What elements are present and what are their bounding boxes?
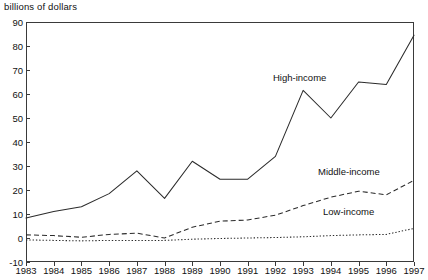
y-tick-mark (26, 238, 30, 239)
x-tick-label: 1995 (348, 265, 369, 276)
x-tick-label: 1986 (99, 265, 120, 276)
y-tick-label: 0 (18, 233, 23, 244)
y-tick-mark (26, 166, 30, 167)
x-tick-label: 1991 (237, 265, 258, 276)
y-tick-mark (26, 190, 30, 191)
y-tick-mark (26, 70, 30, 71)
y-tick-label: 80 (12, 41, 23, 52)
x-tick-label: 1997 (403, 265, 424, 276)
x-tick-label: 1993 (293, 265, 314, 276)
x-tick-label: 1994 (320, 265, 341, 276)
x-tick-label: 1984 (43, 265, 64, 276)
y-tick-label: 50 (12, 113, 23, 124)
y-tick-label: 20 (12, 185, 23, 196)
x-tick-label: 1985 (71, 265, 92, 276)
line-chart: billions of dollars -1001020304050607080… (0, 0, 428, 280)
y-tick-label: 90 (12, 17, 23, 28)
y-tick-label: 40 (12, 137, 23, 148)
series-label-low-income: Low-income (323, 206, 374, 217)
x-tick-label: 1992 (265, 265, 286, 276)
plot-area (26, 22, 414, 262)
x-tick-label: 1988 (154, 265, 175, 276)
x-tick-label: 1983 (15, 265, 36, 276)
x-tick-label: 1987 (126, 265, 147, 276)
y-axis-labels: -100102030405060708090 (0, 0, 23, 280)
x-tick-label: 1990 (209, 265, 230, 276)
y-tick-mark (26, 142, 30, 143)
y-tick-mark (26, 214, 30, 215)
y-tick-label: 70 (12, 65, 23, 76)
y-tick-mark (26, 46, 30, 47)
y-tick-label: 10 (12, 209, 23, 220)
series-label-high-income: High-income (273, 72, 326, 83)
y-tick-mark (26, 22, 30, 23)
x-tick-label: 1989 (182, 265, 203, 276)
y-tick-mark (26, 94, 30, 95)
series-label-middle-income: Middle-income (318, 166, 380, 177)
y-tick-label: 30 (12, 161, 23, 172)
x-tick-label: 1996 (376, 265, 397, 276)
y-tick-mark (26, 118, 30, 119)
y-tick-label: 60 (12, 89, 23, 100)
